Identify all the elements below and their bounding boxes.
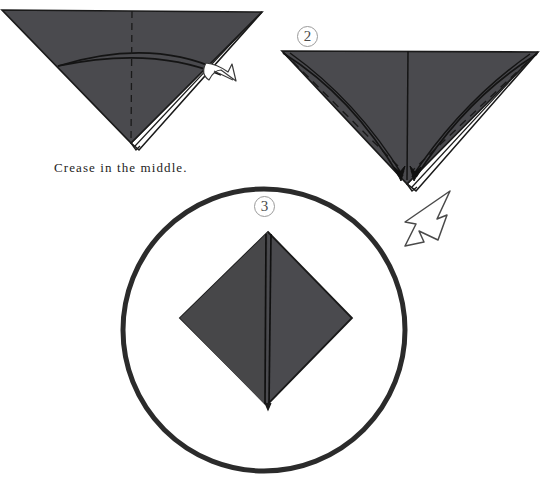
step-badge-2: 2 bbox=[297, 26, 318, 47]
step-3-apex-tail bbox=[265, 403, 271, 410]
origami-diagram-svg bbox=[0, 0, 544, 488]
step-badge-3: 3 bbox=[254, 196, 275, 217]
step-2-paper-triangle bbox=[282, 51, 538, 184]
step-1-group bbox=[2, 10, 262, 150]
step-3-group bbox=[123, 189, 405, 471]
step2-to-step3-arrow-icon bbox=[405, 191, 450, 246]
crease-instruction-caption: Crease in the middle. bbox=[54, 160, 188, 176]
step-2-center-crease bbox=[407, 51, 408, 180]
step-2-group bbox=[282, 51, 538, 191]
step-1-unfold-arrow-icon bbox=[204, 63, 236, 81]
step-3-left-flap bbox=[180, 232, 268, 405]
step-3-center-seam-left bbox=[265, 234, 266, 404]
transition-arrow-group bbox=[405, 191, 450, 246]
origami-figure-root: Crease in the middle. 2 3 bbox=[0, 0, 544, 488]
